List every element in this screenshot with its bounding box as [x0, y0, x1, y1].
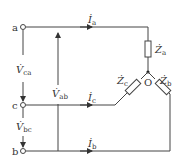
node-label-a: a — [12, 22, 18, 33]
wire-a — [26, 27, 148, 41]
label-vbc: V̇bc — [16, 121, 32, 134]
terminal-b — [21, 149, 26, 154]
node-label-o: O — [144, 77, 152, 88]
branch-c — [26, 72, 148, 105]
label-zc: Żc — [116, 75, 128, 88]
label-ic: İc — [87, 92, 96, 105]
label-vca: V̇ca — [16, 64, 31, 77]
label-vab: V̇ab — [52, 88, 68, 101]
terminal-a — [21, 25, 26, 30]
node-label-c: c — [12, 100, 18, 111]
node-label-b: b — [12, 146, 18, 157]
terminal-c — [21, 103, 26, 108]
label-ib: İb — [87, 138, 97, 151]
label-ia: İa — [87, 14, 96, 27]
circuit-diagram: a c b O İa İc İb V̇ca V̇bc V̇ab Ża Żc Żb — [0, 0, 180, 165]
label-za: Ża — [154, 44, 166, 57]
impedance-za — [145, 41, 151, 57]
